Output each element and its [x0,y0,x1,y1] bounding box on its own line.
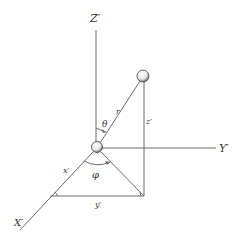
y-axis-label: Y′ [219,142,229,155]
particle-sphere-icon [137,70,149,82]
z-axis-label: Z′ [89,12,101,25]
phi-label: φ [92,169,99,180]
phi-arrow-icon [105,161,110,165]
theta-label: θ [102,119,108,129]
origin-sphere-icon [92,142,103,153]
theta-arrow-icon [102,129,106,133]
angle-tick-x [55,192,58,196]
x-axis [20,152,93,230]
x-axis-label: X′ [13,217,24,228]
z-component-label: z′ [145,117,152,126]
coordinate-diagram: Z′ Y′ X′ r θ φ z′ x′ y′ [0,0,247,241]
r-vector [100,81,140,143]
x-component-label: x′ [63,166,70,175]
y-component-label: y′ [94,200,102,209]
xy-projection-line [101,152,144,196]
